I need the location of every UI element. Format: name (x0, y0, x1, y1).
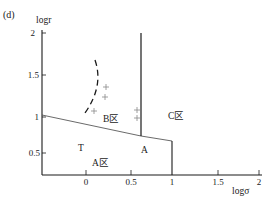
region-label-t: T (78, 143, 84, 153)
x-tick-label-1: 1 (170, 177, 175, 187)
y-tick-label-0.5: 0.5 (29, 148, 41, 158)
x-tick-label-0.5: 0.5 (125, 177, 137, 187)
plus-marker-icon (102, 94, 108, 100)
phase-diagram: (d) logr 2 1.5 1 0.5 logσ 0 0.5 1 1.5 2 … (0, 0, 274, 199)
plus-marker-icon (134, 107, 140, 113)
y-tick-label-2: 2 (31, 28, 36, 38)
region-label-a-zone: A区 (92, 158, 109, 168)
x-axis-label: logσ (232, 186, 249, 196)
dashed-curve (85, 60, 98, 113)
x-tick-label-2: 2 (257, 177, 262, 187)
x-tick-label-0: 0 (84, 177, 89, 187)
x-tick-label-1.5: 1.5 (212, 177, 224, 187)
region-label-c: C区 (168, 111, 184, 121)
region-label-b: B区 (103, 114, 119, 124)
plus-marker-icon (134, 115, 140, 121)
plus-marker-icon (91, 108, 97, 114)
y-tick-label-1.5: 1.5 (28, 70, 40, 80)
y-tick-label-1: 1 (35, 112, 40, 122)
plus-marker-icon (103, 84, 109, 90)
region-label-a: A (141, 145, 148, 155)
panel-label: (d) (3, 9, 15, 21)
y-axis-label: logr (36, 15, 52, 25)
